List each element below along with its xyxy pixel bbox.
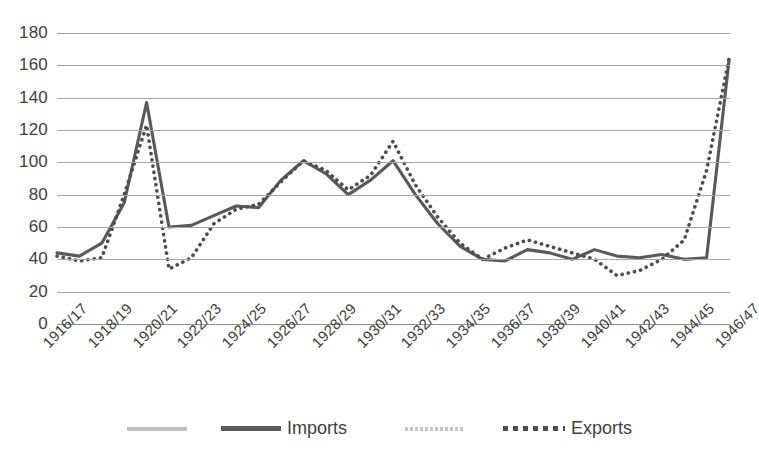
- y-axis-tick-label: 40: [29, 249, 48, 269]
- legend-item-imports-pale: [127, 427, 187, 431]
- solid-line-swatch: [221, 426, 281, 431]
- line-chart: 020406080100120140160180 1916/171918/191…: [0, 0, 759, 451]
- plot-area: [57, 33, 730, 324]
- y-axis-tick-label: 100: [19, 152, 48, 172]
- gridline: [57, 195, 730, 196]
- y-axis-tick-label: 120: [19, 120, 48, 140]
- series-layer: [57, 33, 730, 324]
- gridline: [57, 292, 730, 293]
- gridline: [57, 259, 730, 260]
- dotted-line-swatch-pale: [405, 427, 465, 431]
- y-axis-tick-label: 20: [29, 282, 48, 302]
- dotted-line-swatch: [503, 426, 565, 431]
- legend-item-imports: Imports: [221, 418, 347, 439]
- gridline: [57, 33, 730, 34]
- legend-item-exports-pale: [405, 427, 465, 431]
- gridline: [57, 98, 730, 99]
- chart-legend: Imports Exports: [0, 406, 759, 451]
- gridline: [57, 162, 730, 163]
- solid-line-swatch-pale: [127, 427, 187, 431]
- gridline: [57, 65, 730, 66]
- y-axis-tick-label: 160: [19, 55, 48, 75]
- legend-item-exports: Exports: [503, 418, 632, 439]
- y-axis-tick-label: 80: [29, 185, 48, 205]
- imports-line: [57, 60, 729, 260]
- y-axis-tick-label: 140: [19, 88, 48, 108]
- y-axis-tick-label: 180: [19, 23, 48, 43]
- legend-label-imports: Imports: [287, 418, 347, 439]
- gridline: [57, 130, 730, 131]
- gridline: [57, 227, 730, 228]
- y-axis-tick-label: 60: [29, 217, 48, 237]
- legend-label-exports: Exports: [571, 418, 632, 439]
